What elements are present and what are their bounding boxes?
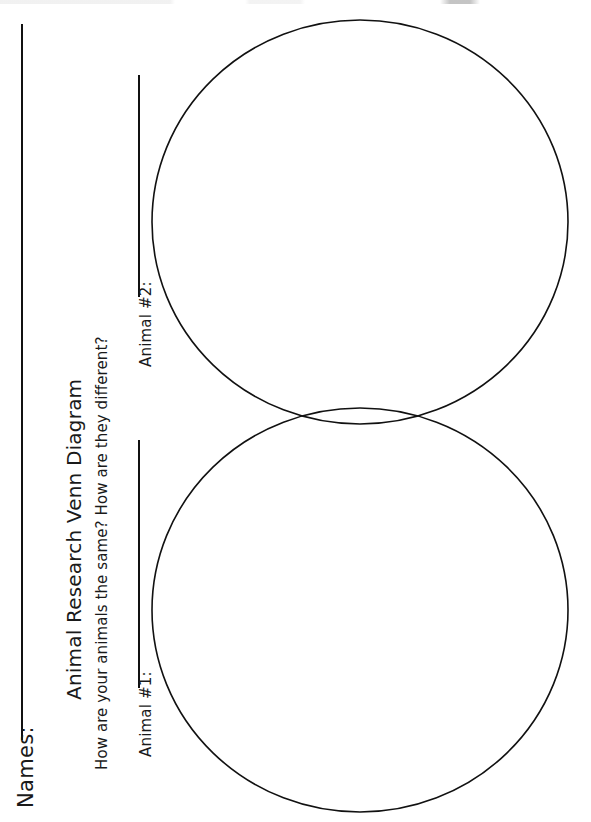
animal2-answer-line[interactable] [138,75,140,297]
animal2-label: Animal #2: [139,281,154,367]
worksheet-page: Names: Animal Research Venn Diagram How … [0,0,591,822]
venn-diagram [0,0,591,822]
page-subtitle: How are your animals the same? How are t… [95,337,110,770]
page-title: Animal Research Venn Diagram [64,379,84,700]
names-label: Names: [16,726,37,808]
venn-ellipse-animal2 [152,20,568,424]
venn-ellipse-animal1 [152,408,568,812]
names-answer-line[interactable] [21,24,23,740]
animal1-answer-line[interactable] [138,440,140,688]
animal1-label: Animal #1: [139,671,154,757]
